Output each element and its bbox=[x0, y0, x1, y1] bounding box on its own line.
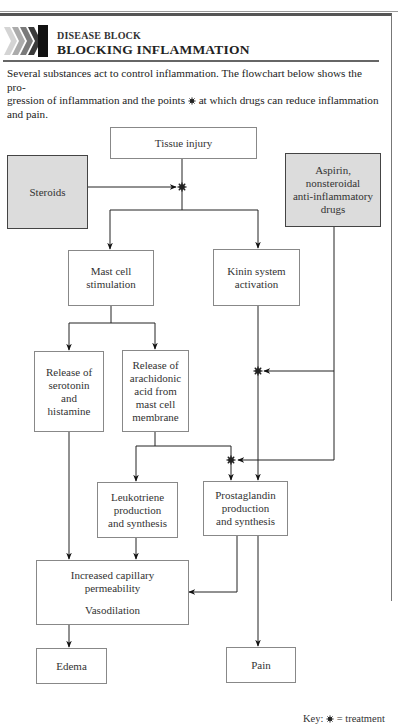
key-prefix: Key: bbox=[303, 713, 323, 724]
node-pain: Pain bbox=[226, 647, 296, 683]
node-mast-cell-stimulation: Mast cell stimulation bbox=[68, 250, 154, 306]
node-label: permeability bbox=[71, 582, 154, 595]
treatment-star-icon bbox=[326, 715, 334, 723]
node-aspirin-nsaids: Aspirin, nonsteroidal anti-inflammatory … bbox=[285, 153, 381, 227]
treatment-point-3 bbox=[227, 456, 236, 465]
node-label: Edema bbox=[56, 660, 87, 673]
node-label: stimulation bbox=[86, 278, 136, 291]
treatment-point-1 bbox=[178, 183, 187, 192]
node-label: and bbox=[46, 392, 92, 405]
node-label: serotonin bbox=[46, 379, 92, 392]
node-label: Vasodilation bbox=[71, 604, 154, 617]
node-label: Tissue injury bbox=[155, 137, 212, 150]
node-label: and synthesis bbox=[108, 517, 167, 530]
node-label: production bbox=[108, 504, 167, 517]
node-label: anti-inflammatory bbox=[293, 190, 373, 203]
node-prostaglandin: Prostaglandin production and synthesis bbox=[203, 481, 288, 536]
node-tissue-injury: Tissue injury bbox=[110, 127, 257, 159]
node-label: Mast cell bbox=[86, 265, 136, 278]
node-label: membrane bbox=[130, 411, 181, 424]
node-steroids: Steroids bbox=[7, 155, 88, 229]
node-release-arachidonic: Release of arachidonic acid from mast ce… bbox=[122, 350, 189, 432]
node-label: production bbox=[215, 502, 276, 515]
node-label: Aspirin, bbox=[293, 164, 373, 177]
node-label: activation bbox=[227, 278, 285, 291]
node-label: histamine bbox=[46, 405, 92, 418]
node-label: Release of bbox=[46, 366, 92, 379]
node-label: acid from bbox=[130, 385, 181, 398]
node-leukotriene: Leukotriene production and synthesis bbox=[97, 482, 178, 538]
node-label: nonsteroidal bbox=[293, 177, 373, 190]
node-release-serotonin: Release of serotonin and histamine bbox=[34, 351, 104, 432]
node-spacer bbox=[71, 595, 154, 604]
node-label: Prostaglandin bbox=[215, 489, 276, 502]
node-label: mast cell bbox=[130, 398, 181, 411]
node-kinin-activation: Kinin system activation bbox=[213, 249, 300, 306]
node-label: Kinin system bbox=[227, 265, 285, 278]
treatment-point-2 bbox=[254, 367, 263, 376]
node-label: Increased capillary bbox=[71, 569, 154, 582]
node-label: Pain bbox=[251, 659, 271, 672]
node-edema: Edema bbox=[36, 648, 107, 684]
node-label: arachidonic bbox=[130, 372, 181, 385]
node-label: Release of bbox=[130, 359, 181, 372]
node-label: and synthesis bbox=[215, 515, 276, 528]
node-increased-permeability: Increased capillary permeability Vasodil… bbox=[36, 560, 189, 625]
node-label: Steroids bbox=[29, 186, 65, 199]
node-label: Leukotriene bbox=[108, 491, 167, 504]
key-suffix: = treatment bbox=[337, 713, 385, 724]
legend-key: Key: = treatment bbox=[303, 713, 385, 724]
node-label: drugs bbox=[293, 203, 373, 216]
